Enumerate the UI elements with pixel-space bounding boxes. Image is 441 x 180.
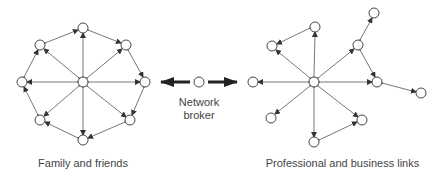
network-diagram	[0, 0, 441, 180]
broker-label-line2: broker	[169, 109, 229, 122]
family-nodes	[17, 23, 150, 145]
professional-nodes	[248, 8, 426, 147]
professional-network	[258, 18, 416, 140]
network-broker	[161, 77, 237, 87]
family-hub-node	[78, 77, 88, 87]
broker-label-line1: Network	[169, 96, 229, 109]
professional-hub-node	[309, 77, 319, 87]
professional-network-label: Professional and business links	[250, 157, 435, 170]
broker-node	[194, 77, 204, 87]
family-network-label: Family and friends	[18, 157, 148, 170]
broker-label: Network broker	[169, 96, 229, 122]
